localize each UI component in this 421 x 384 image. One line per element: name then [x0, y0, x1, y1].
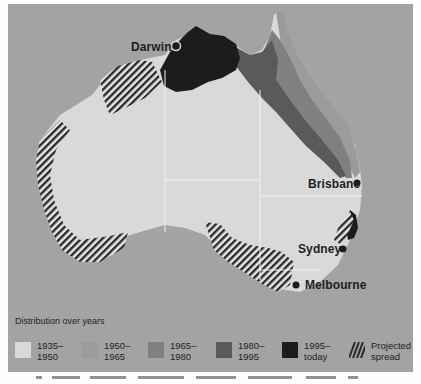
truncated-caption: [30, 376, 390, 384]
city-label-melbourne: Melbourne: [305, 278, 367, 292]
swatch-1995-today: [282, 342, 298, 358]
hatch-swatch-icon: [349, 342, 365, 358]
melbourne-marker: [293, 282, 300, 289]
city-label-brisbane: Brisbane: [308, 177, 360, 191]
australia-distribution-map: [0, 0, 421, 300]
legend-label: 1965– 1980: [170, 340, 196, 362]
city-label-sydney: Sydney: [298, 242, 341, 256]
legend-label: 1995– today: [304, 340, 330, 362]
darwin-marker: [172, 42, 181, 51]
legend-label: Projected spread: [371, 340, 411, 362]
swatch-1950-1965: [82, 342, 98, 358]
swatch-1965-1980: [148, 342, 164, 358]
legend-label: 1950– 1965: [104, 340, 130, 362]
swatch-1980-1995: [216, 342, 232, 358]
legend-title: Distribution over years: [15, 316, 105, 326]
legend-label: 1935– 1950: [37, 340, 63, 362]
city-label-darwin: Darwin: [131, 40, 172, 54]
swatch-1935-1950: [15, 342, 31, 358]
legend-label: 1980– 1995: [238, 340, 264, 362]
legend: 1935– 1950 1950– 1965 1965– 1980 1980– 1…: [15, 340, 415, 364]
